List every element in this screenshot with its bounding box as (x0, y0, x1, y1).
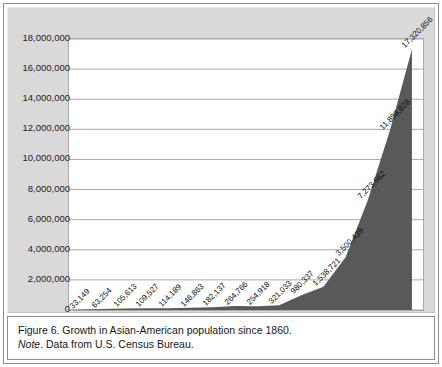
y-axis-tick-label: 14,000,000 (0, 93, 70, 103)
chart-panel: 18,000,00016,000,00014,000,00012,000,000… (7, 7, 435, 313)
plot-area (68, 38, 424, 311)
y-axis-tick-label: 6,000,000 (0, 214, 70, 224)
y-axis-tick-label: 10,000,000 (0, 153, 70, 163)
y-axis-tick-label: 0 (0, 304, 70, 314)
y-axis-tick-label: 12,000,000 (0, 123, 70, 133)
caption-title: Figure 6. Growth in Asian-American popul… (18, 324, 292, 336)
y-axis-tick-label: 16,000,000 (0, 63, 70, 73)
caption-title-line: Figure 6. Growth in Asian-American popul… (18, 323, 424, 337)
figure-container: 18,000,00016,000,00014,000,00012,000,000… (0, 0, 442, 367)
note-label: Note (18, 338, 40, 350)
caption-note-line: Note. Data from U.S. Census Bureau. (18, 337, 424, 351)
area-chart-svg (69, 39, 423, 310)
y-axis-tick-label: 2,000,000 (0, 274, 70, 284)
figure-caption: Figure 6. Growth in Asian-American popul… (7, 316, 435, 360)
note-text: . Data from U.S. Census Bureau. (40, 338, 193, 350)
y-axis-tick-label: 8,000,000 (0, 184, 70, 194)
y-axis-tick-label: 18,000,000 (0, 33, 70, 43)
y-axis-tick-label: 4,000,000 (0, 244, 70, 254)
